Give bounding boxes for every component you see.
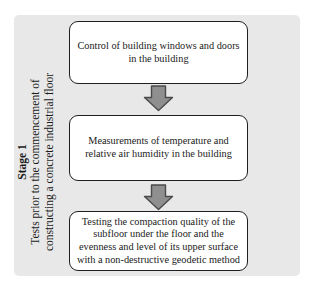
flow-step-text: Control of building windows and doors in… [74, 40, 243, 65]
stage-subtitle: Tests prior to the commencement of const… [29, 56, 56, 268]
flow-step-windows-doors-control: Control of building windows and doors in… [69, 21, 248, 84]
stage-label: Stage 1 Tests prior to the commencement … [16, 56, 58, 268]
flow-step-temperature-humidity: Measurements of temperature and relative… [69, 115, 248, 181]
down-arrow-icon [143, 184, 174, 211]
stage-title: Stage 1 [16, 56, 29, 268]
flow-step-subfloor-compaction-testing: Testing the compaction quality of the su… [69, 211, 248, 271]
flow-step-text: Measurements of temperature and relative… [74, 135, 243, 160]
down-arrow-icon [143, 85, 174, 112]
flowchart-figure: Stage 1 Tests prior to the commencement … [0, 0, 313, 289]
flow-step-text: Testing the compaction quality of the su… [74, 216, 243, 266]
